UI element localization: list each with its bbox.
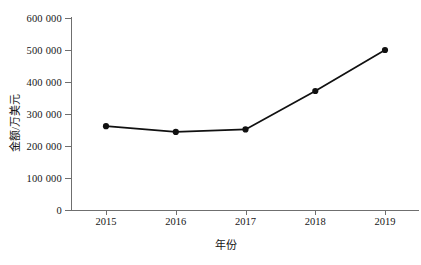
data-point-marker xyxy=(173,129,179,135)
series-points xyxy=(103,47,388,135)
data-point-marker xyxy=(103,123,109,129)
data-point-marker xyxy=(242,126,248,132)
line-chart: 0100 000200 000300 000400 000500 000600 … xyxy=(0,0,421,265)
data-point-marker xyxy=(382,47,388,53)
series-line xyxy=(106,50,385,132)
data-point-marker xyxy=(312,88,318,94)
plot-area xyxy=(0,0,421,265)
